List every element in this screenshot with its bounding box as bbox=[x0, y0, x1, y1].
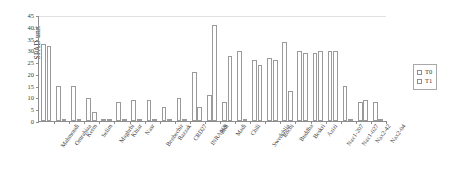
bar-t0 bbox=[41, 44, 46, 121]
bar-group bbox=[54, 16, 69, 121]
bar-t0 bbox=[222, 102, 227, 121]
bar-t1 bbox=[318, 51, 323, 121]
bar-t0 bbox=[373, 102, 378, 121]
bar-group bbox=[295, 16, 310, 121]
bar-t0 bbox=[237, 51, 242, 121]
bar-group bbox=[220, 16, 235, 121]
y-tick-label: 15 bbox=[14, 83, 34, 90]
x-tick-label: Madi bbox=[235, 123, 248, 137]
plot-area: 051015202530354045 bbox=[38, 16, 386, 122]
bar-t0 bbox=[267, 58, 272, 121]
x-tick-label: Nasr bbox=[144, 123, 156, 136]
bar-t1 bbox=[228, 56, 233, 121]
bar-t0 bbox=[56, 86, 61, 121]
bar-t0 bbox=[252, 60, 257, 121]
bar-t1 bbox=[348, 119, 353, 121]
legend-label-t0: T0 bbox=[425, 69, 432, 76]
y-tick-label: 40 bbox=[14, 25, 34, 32]
bar-t1 bbox=[258, 65, 263, 121]
bar-group bbox=[326, 16, 341, 121]
bar-t0 bbox=[282, 42, 287, 121]
bar-t1 bbox=[243, 119, 248, 121]
y-tick-label: 30 bbox=[14, 48, 34, 55]
y-tick-label: 35 bbox=[14, 36, 34, 43]
bar-t0 bbox=[192, 72, 197, 121]
bar-group bbox=[311, 16, 326, 121]
bar-group bbox=[250, 16, 265, 121]
bar-t1 bbox=[303, 53, 308, 121]
bar-t1 bbox=[152, 119, 157, 121]
bar-group bbox=[235, 16, 250, 121]
bar-t0 bbox=[86, 98, 91, 121]
bar-t1 bbox=[182, 119, 187, 121]
x-tick-label: CRD27 bbox=[192, 123, 208, 142]
x-axis-line bbox=[38, 121, 386, 122]
bar-group bbox=[84, 16, 99, 121]
bar-t1 bbox=[137, 119, 142, 121]
bar-t0 bbox=[101, 119, 106, 121]
bar-group bbox=[175, 16, 190, 121]
bar-t1 bbox=[197, 107, 202, 121]
bar-t1 bbox=[47, 46, 52, 121]
x-tick-label: Chili bbox=[250, 123, 262, 137]
y-tick-label: 20 bbox=[14, 72, 34, 79]
bars-layer bbox=[39, 16, 386, 121]
y-tick-label: 10 bbox=[14, 95, 34, 102]
bar-t1 bbox=[167, 119, 172, 121]
bar-t0 bbox=[177, 98, 182, 121]
bar-t0 bbox=[162, 107, 167, 121]
bar-t1 bbox=[122, 119, 127, 121]
bar-group bbox=[39, 16, 54, 121]
y-tick-label: 25 bbox=[14, 60, 34, 67]
bar-t0 bbox=[116, 102, 121, 121]
bar-group bbox=[114, 16, 129, 121]
chart-legend: T0 T1 bbox=[413, 64, 437, 90]
y-tick-label: 0 bbox=[14, 119, 34, 126]
x-axis-labels: MahmoudiOmrabiaaKermSelimMaghrbiKhiarNas… bbox=[38, 123, 386, 183]
bar-group bbox=[160, 16, 175, 121]
bar-group bbox=[145, 16, 160, 121]
bar-t1 bbox=[212, 25, 217, 121]
x-tick-label: Nax2-04 bbox=[390, 123, 408, 144]
y-tick-label: 45 bbox=[14, 13, 34, 20]
bar-t0 bbox=[207, 95, 212, 121]
bar-t1 bbox=[378, 119, 383, 121]
bar-t1 bbox=[107, 119, 112, 121]
bar-group bbox=[265, 16, 280, 121]
bar-group bbox=[69, 16, 84, 121]
bar-t1 bbox=[77, 119, 82, 121]
spad-unit-bar-chart: SPAD unit 051015202530354045 MahmoudiOmr… bbox=[0, 0, 458, 184]
bar-t0 bbox=[328, 51, 333, 121]
bar-t1 bbox=[333, 51, 338, 121]
y-tick-label: 5 bbox=[14, 107, 34, 114]
bar-group bbox=[130, 16, 145, 121]
bar-group bbox=[280, 16, 295, 121]
bar-t1 bbox=[273, 60, 278, 121]
bar-t0 bbox=[313, 53, 318, 121]
legend-swatch-icon bbox=[417, 79, 422, 84]
bar-t0 bbox=[71, 86, 76, 121]
x-tick-label: Selim bbox=[100, 123, 113, 138]
bar-group bbox=[341, 16, 356, 121]
bar-t0 bbox=[358, 102, 363, 121]
bar-t0 bbox=[131, 100, 136, 121]
bar-t0 bbox=[297, 51, 302, 121]
bar-group bbox=[371, 16, 386, 121]
x-tick-label: Bidi bbox=[219, 123, 230, 135]
bar-t0 bbox=[147, 100, 152, 121]
legend-item-t0: T0 bbox=[417, 68, 432, 77]
bar-t1 bbox=[92, 112, 97, 121]
legend-item-t1: T1 bbox=[417, 77, 432, 86]
bar-t1 bbox=[288, 91, 293, 121]
bar-group bbox=[205, 16, 220, 121]
bar-group bbox=[356, 16, 371, 121]
legend-swatch-icon bbox=[417, 70, 422, 75]
x-tick-label: Azizi bbox=[326, 123, 339, 138]
bar-t1 bbox=[363, 100, 368, 121]
legend-label-t1: T1 bbox=[425, 78, 432, 85]
bar-group bbox=[99, 16, 114, 121]
bar-t0 bbox=[343, 86, 348, 121]
bar-t1 bbox=[62, 119, 67, 121]
bar-group bbox=[190, 16, 205, 121]
